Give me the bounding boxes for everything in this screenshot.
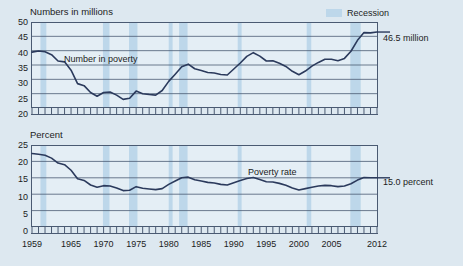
panel1-end-annotation: 46.5 million xyxy=(383,33,429,43)
figure-root: Recession Numbers in millions 50 45 40 3… xyxy=(0,0,463,266)
x-tick-1965: 1965 xyxy=(57,240,85,249)
panel2-axis-title: Percent xyxy=(30,130,63,139)
x-tick-1970: 1970 xyxy=(90,240,118,249)
panel2-ytick-15: 15 xyxy=(12,175,28,184)
panel1-ytick-25: 25 xyxy=(12,95,28,104)
panel2-ytick-20: 20 xyxy=(12,158,28,167)
x-tick-1995: 1995 xyxy=(252,240,280,249)
panel1-ytick-45: 45 xyxy=(12,33,28,42)
recession-legend-label: Recession xyxy=(347,9,389,18)
panel1-plot xyxy=(31,22,378,117)
panel1-ytick-20: 20 xyxy=(12,110,28,119)
panel2-ytick-5: 5 xyxy=(12,210,28,219)
panel1-axis-title: Numbers in millions xyxy=(30,7,113,16)
x-tick-2000: 2000 xyxy=(285,240,313,249)
panel2-plot xyxy=(31,145,378,236)
x-tick-2012: 2012 xyxy=(363,240,391,249)
panel1-series-label: Number in poverty xyxy=(64,55,138,64)
x-tick-1985: 1985 xyxy=(187,240,215,249)
recession-legend-swatch xyxy=(326,9,342,17)
panel2-ytick-0: 0 xyxy=(12,227,28,236)
x-tick-1959: 1959 xyxy=(18,240,46,249)
panel2-ytick-10: 10 xyxy=(12,193,28,202)
panel1-ytick-30: 30 xyxy=(12,79,28,88)
x-tick-2005: 2005 xyxy=(317,240,345,249)
panel1-ytick-40: 40 xyxy=(12,49,28,58)
panel2-end-annotation: 15.0 percent xyxy=(383,177,433,187)
panel1-ytick-35: 35 xyxy=(12,64,28,73)
x-tick-1975: 1975 xyxy=(122,240,150,249)
x-tick-1980: 1980 xyxy=(155,240,183,249)
panel2-series-label: Poverty rate xyxy=(248,168,297,177)
x-tick-1990: 1990 xyxy=(220,240,248,249)
panel1-ytick-50: 50 xyxy=(12,18,28,27)
panel2-ytick-25: 25 xyxy=(12,141,28,150)
